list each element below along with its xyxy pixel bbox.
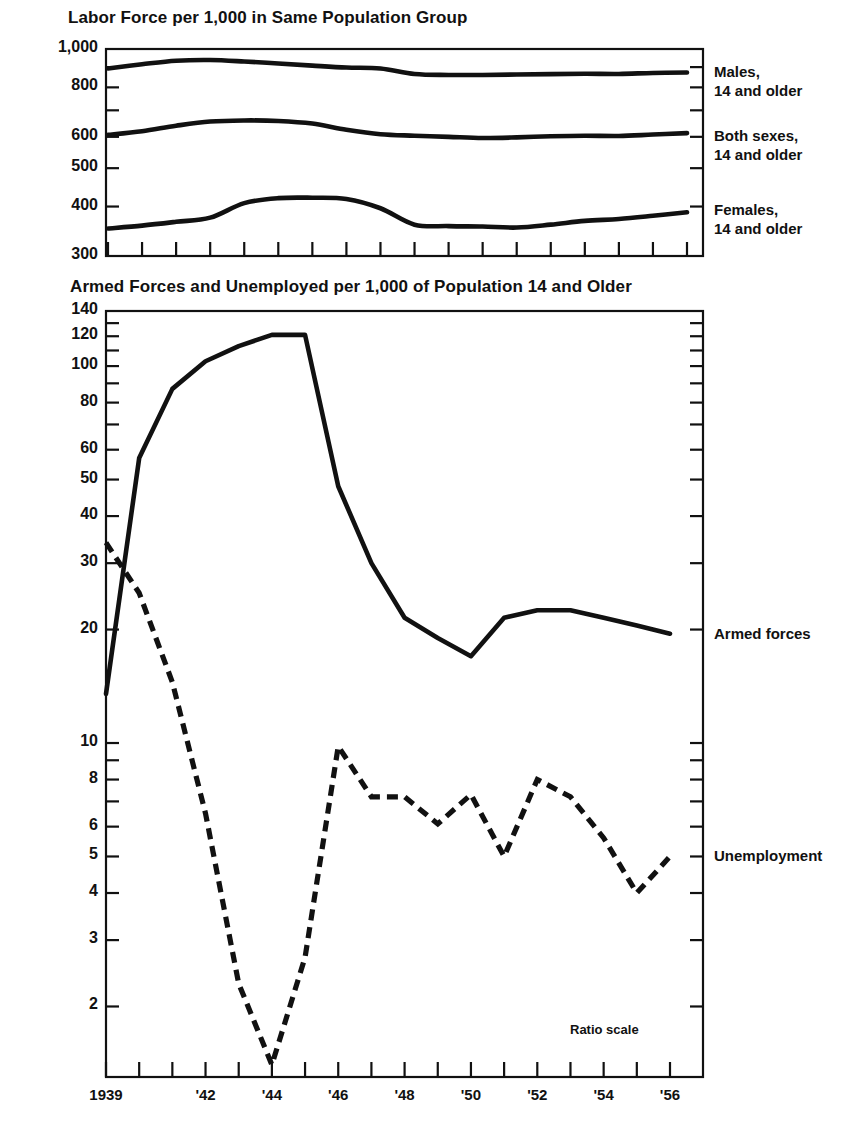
bottom-series-line-1 xyxy=(106,543,670,1065)
bottom-ytick-40: 40 xyxy=(30,505,98,523)
bottom-xtick-3: '42 xyxy=(176,1086,236,1103)
bottom-xtick-15: '54 xyxy=(574,1086,634,1103)
bottom-ytick-100: 100 xyxy=(30,355,98,373)
bottom-xtick-5: '44 xyxy=(242,1086,302,1103)
bottom-ytick-80: 80 xyxy=(30,392,98,410)
bottom-ytick-140: 140 xyxy=(30,300,98,318)
bottom-xtick-0: 1939 xyxy=(76,1086,136,1103)
bottom-ytick-8: 8 xyxy=(30,769,98,787)
bottom-ytick-3: 3 xyxy=(30,929,98,947)
bottom-xtick-11: '50 xyxy=(441,1086,501,1103)
bottom-series-line-0 xyxy=(106,335,670,694)
ratio-scale-note: Ratio scale xyxy=(570,1022,639,1037)
bottom-ytick-4: 4 xyxy=(30,882,98,900)
chart-page: Labor Force per 1,000 in Same Population… xyxy=(0,0,852,1129)
bottom-ytick-60: 60 xyxy=(30,439,98,457)
bottom-ytick-6: 6 xyxy=(30,816,98,834)
bottom-series-label-armed-forces: Armed forces xyxy=(714,624,811,643)
bottom-ytick-120: 120 xyxy=(30,325,98,343)
bottom-ytick-20: 20 xyxy=(30,619,98,637)
bottom-ytick-10: 10 xyxy=(30,732,98,750)
bottom-ytick-50: 50 xyxy=(30,469,98,487)
bottom-xtick-13: '52 xyxy=(507,1086,567,1103)
bottom-xtick-9: '48 xyxy=(375,1086,435,1103)
bottom-xtick-7: '46 xyxy=(308,1086,368,1103)
bottom-xtick-17: '56 xyxy=(640,1086,700,1103)
bottom-ytick-2: 2 xyxy=(30,995,98,1013)
bottom-ytick-30: 30 xyxy=(30,552,98,570)
bottom-chart-svg xyxy=(0,0,852,1129)
bottom-ytick-5: 5 xyxy=(30,845,98,863)
bottom-series-label-unemployment: Unemployment xyxy=(714,846,822,865)
bottom-chart-frame xyxy=(106,311,703,1077)
